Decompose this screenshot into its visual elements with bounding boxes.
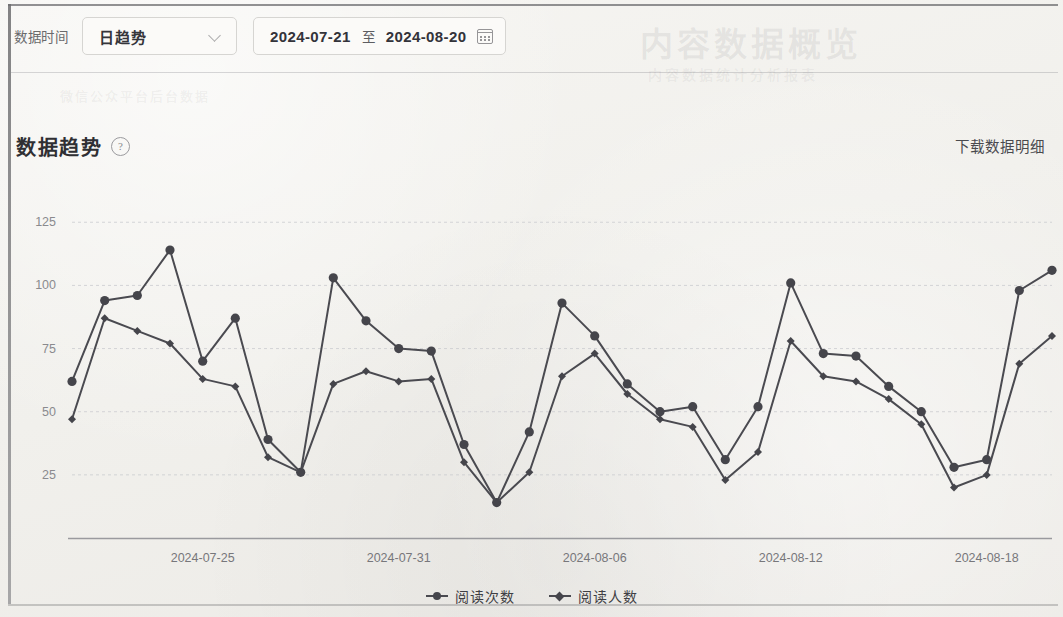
x-axis-tick-label: 2024-07-31 — [367, 551, 431, 565]
y-axis-tick-label: 75 — [42, 342, 56, 356]
data-point[interactable] — [786, 278, 795, 287]
calendar-icon[interactable] — [477, 29, 493, 44]
data-point[interactable] — [231, 382, 239, 390]
legend-item[interactable]: 阅读人数 — [549, 586, 638, 606]
chart-legend: 阅读次数阅读人数 — [0, 586, 1063, 606]
date-range-end: 2024-08-20 — [386, 28, 467, 45]
data-point[interactable] — [525, 427, 534, 436]
data-point[interactable] — [67, 377, 76, 386]
chevron-down-icon — [209, 30, 222, 43]
data-point[interactable] — [851, 352, 860, 361]
trend-chart: 255075100125 2024-07-252024-07-312024-08… — [0, 185, 1063, 585]
download-detail-link[interactable]: 下载数据明细 — [955, 135, 1045, 156]
data-point[interactable] — [329, 273, 338, 282]
background-bleed-title: 内容数据概览 — [640, 18, 862, 66]
toolbar-divider — [11, 72, 1058, 73]
y-axis-tick-label: 100 — [35, 278, 56, 292]
x-axis-tick-label: 2024-08-12 — [759, 551, 823, 565]
data-point[interactable] — [655, 407, 664, 416]
data-point[interactable] — [819, 349, 828, 358]
data-point[interactable] — [329, 380, 337, 388]
data-point[interactable] — [753, 402, 762, 411]
data-time-label: 数据时间 — [14, 26, 68, 46]
x-axis-tick-label: 2024-08-06 — [563, 551, 627, 565]
data-point[interactable] — [590, 331, 599, 340]
legend-item[interactable]: 阅读次数 — [426, 586, 515, 606]
data-point[interactable] — [852, 377, 860, 385]
legend-diamond-marker-icon — [549, 591, 571, 601]
chart-series-group — [67, 245, 1056, 507]
date-range-separator: 至 — [362, 26, 375, 46]
chart-gridlines — [72, 222, 1052, 475]
data-point[interactable] — [133, 291, 142, 300]
legend-item-label: 阅读次数 — [455, 586, 515, 606]
y-axis-tick-label: 125 — [35, 215, 56, 229]
data-point[interactable] — [917, 407, 926, 416]
data-point[interactable] — [1047, 266, 1056, 275]
trend-chart-svg[interactable]: 255075100125 2024-07-252024-07-312024-08… — [0, 185, 1063, 585]
data-point[interactable] — [394, 344, 403, 353]
date-range-start: 2024-07-21 — [270, 28, 351, 45]
data-point[interactable] — [68, 415, 76, 423]
date-range-picker[interactable]: 2024-07-21 至 2024-08-20 — [253, 17, 506, 55]
data-point[interactable] — [231, 314, 240, 323]
data-point[interactable] — [165, 245, 174, 254]
data-point[interactable] — [264, 453, 272, 461]
granularity-select[interactable]: 日趋势 — [82, 17, 237, 55]
data-point[interactable] — [198, 357, 207, 366]
trend-section-header: 数据趋势 ? 下载数据明细 — [14, 132, 1049, 166]
data-point[interactable] — [557, 299, 566, 308]
data-point[interactable] — [362, 367, 370, 375]
data-point[interactable] — [263, 435, 272, 444]
question-mark-icon[interactable]: ? — [111, 137, 130, 156]
data-point[interactable] — [395, 377, 403, 385]
series-line-diamond — [72, 318, 1052, 502]
data-point[interactable] — [427, 375, 435, 383]
data-point[interactable] — [949, 463, 958, 472]
filter-toolbar: 数据时间 日趋势 2024-07-21 至 2024-08-20 — [14, 14, 506, 58]
data-point[interactable] — [100, 296, 109, 305]
x-axis-tick-label: 2024-07-25 — [171, 551, 235, 565]
legend-circle-marker-icon — [426, 591, 448, 601]
data-point[interactable] — [361, 316, 370, 325]
data-point[interactable] — [721, 455, 730, 464]
data-point[interactable] — [688, 402, 697, 411]
data-point[interactable] — [427, 347, 436, 356]
page-frame-top-border — [8, 4, 1058, 6]
background-bleed-left: 微信公众平台后台数据 — [60, 86, 210, 105]
chart-x-axis-labels: 2024-07-252024-07-312024-08-062024-08-12… — [171, 551, 1019, 565]
granularity-select-value: 日趋势 — [99, 26, 147, 47]
legend-item-label: 阅读人数 — [578, 586, 638, 606]
chart-y-axis-labels: 255075100125 — [35, 215, 56, 482]
x-axis-tick-label: 2024-08-18 — [955, 551, 1019, 565]
data-point[interactable] — [1015, 286, 1024, 295]
data-point[interactable] — [101, 314, 109, 322]
data-point[interactable] — [133, 327, 141, 335]
y-axis-tick-label: 25 — [42, 468, 56, 482]
data-point[interactable] — [983, 471, 991, 479]
data-point[interactable] — [459, 440, 468, 449]
background-bleed-subtitle: 内容数据统计分析报表 — [648, 64, 818, 84]
page-title: 数据趋势 — [16, 132, 102, 161]
data-point[interactable] — [884, 382, 893, 391]
data-point[interactable] — [950, 484, 958, 492]
y-axis-tick-label: 50 — [42, 405, 56, 419]
data-point[interactable] — [623, 379, 632, 388]
